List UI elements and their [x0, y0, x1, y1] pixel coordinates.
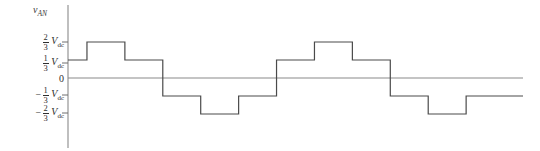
waveform-figure: vAN 2 3 Vdc 1 3 Vdc 0 − 1 3 Vdc −: [0, 0, 540, 151]
plot-area: [0, 0, 540, 151]
y-tick-marks: [62, 42, 68, 113]
